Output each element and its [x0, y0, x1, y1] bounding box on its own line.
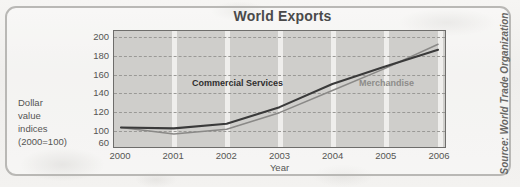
y-tick-180: 180	[75, 49, 109, 60]
y-tick-140: 140	[75, 87, 109, 98]
x-tick-2000: 2000	[109, 150, 130, 161]
chart-figure: World Exports Dollar value indices (2000…	[0, 0, 520, 187]
y-tick-200: 200	[75, 31, 109, 42]
y-tick-120: 120	[75, 106, 109, 117]
chart-title: World Exports	[110, 8, 455, 24]
source-note: Source: World Trade Organization	[497, 0, 513, 187]
y-tick-60: 60	[75, 137, 109, 148]
series-label-commercial-services: Commercial Services	[192, 78, 283, 88]
x-tick-2001: 2001	[163, 150, 184, 161]
x-tick-2002: 2002	[216, 150, 237, 161]
y-axis-tick-labels: 20018016014012010060	[73, 30, 109, 148]
series-line-commercial-services	[121, 50, 438, 129]
x-tick-2004: 2004	[322, 150, 343, 161]
plot-area: Commercial Services Merchandise	[113, 30, 446, 148]
series-label-merchandise: Merchandise	[359, 78, 414, 88]
series-lines	[114, 31, 445, 147]
x-tick-2006: 2006	[428, 150, 449, 161]
series-line-merchandise	[121, 44, 438, 134]
x-axis-label: Year	[113, 162, 446, 173]
source-note-text: Source: World Trade Organization	[500, 13, 511, 175]
x-tick-2005: 2005	[375, 150, 396, 161]
x-tick-2003: 2003	[269, 150, 290, 161]
y-tick-160: 160	[75, 68, 109, 79]
y-tick-100: 100	[75, 125, 109, 136]
